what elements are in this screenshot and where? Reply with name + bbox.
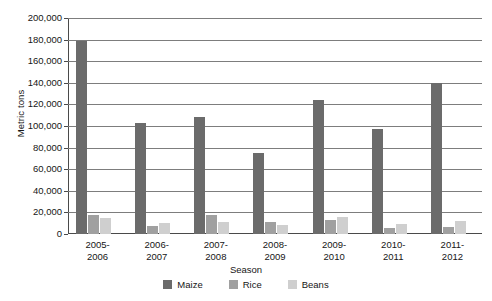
bar-rice xyxy=(147,226,158,234)
bar-rice xyxy=(443,227,454,234)
bar-rice xyxy=(206,215,217,234)
x-axis-label: 2010-2011 xyxy=(364,239,423,262)
bar-maize xyxy=(135,123,146,234)
y-axis-label: 0 xyxy=(57,229,62,239)
legend-label: Beans xyxy=(302,279,329,290)
x-axis-title: Season xyxy=(0,264,492,275)
legend-label: Maize xyxy=(177,279,202,290)
legend-swatch-maize-icon xyxy=(163,280,172,289)
legend-item-rice: Rice xyxy=(229,279,262,290)
bar-group xyxy=(364,18,423,234)
plot-area: 200,000180,000160,000140,000120,000100,0… xyxy=(68,18,482,234)
bar-maize xyxy=(431,83,442,234)
bar-group xyxy=(423,18,482,234)
bar-rice xyxy=(265,222,276,234)
bar-group xyxy=(245,18,304,234)
bar-beans xyxy=(100,218,111,234)
y-axis-label: 60,000 xyxy=(33,164,62,174)
x-axis-label: 2007-2008 xyxy=(186,239,245,262)
chart-legend: MaizeRiceBeans xyxy=(0,279,492,290)
bar-maize xyxy=(76,41,87,234)
y-axis-label: 20,000 xyxy=(33,208,62,218)
x-axis-label: 2011-2012 xyxy=(423,239,482,262)
y-axis-label: 80,000 xyxy=(33,143,62,153)
legend-swatch-rice-icon xyxy=(229,280,238,289)
y-axis-label: 140,000 xyxy=(28,78,62,88)
legend-swatch-beans-icon xyxy=(288,280,297,289)
x-axis-label: 2006-2007 xyxy=(127,239,186,262)
bar-rice xyxy=(384,228,395,234)
bar-group xyxy=(305,18,364,234)
legend-item-maize: Maize xyxy=(163,279,202,290)
bar-group xyxy=(127,18,186,234)
x-axis-label: 2009-2010 xyxy=(305,239,364,262)
bar-beans xyxy=(337,217,348,234)
y-axis-label: 100,000 xyxy=(28,121,62,131)
y-axis-tick xyxy=(64,234,68,235)
bar-beans xyxy=(277,225,288,234)
bar-maize xyxy=(194,117,205,234)
bar-maize xyxy=(372,129,383,234)
bar-group xyxy=(68,18,127,234)
y-axis-label: 120,000 xyxy=(28,100,62,110)
x-axis-label: 2005-2006 xyxy=(68,239,127,262)
y-axis-label: 180,000 xyxy=(28,35,62,45)
bar-maize xyxy=(313,100,324,234)
bar-rice xyxy=(325,220,336,234)
bar-chart: Metric tons 200,000180,000160,000140,000… xyxy=(0,0,492,301)
bar-beans xyxy=(218,222,229,234)
bar-beans xyxy=(396,224,407,234)
y-axis-label: 200,000 xyxy=(28,13,62,23)
bar-rice xyxy=(88,215,99,234)
y-axis-label: 160,000 xyxy=(28,56,62,66)
y-axis-title: Metric tons xyxy=(15,74,26,154)
legend-item-beans: Beans xyxy=(288,279,329,290)
x-axis-label: 2008-2009 xyxy=(245,239,304,262)
bar-maize xyxy=(253,153,264,234)
bar-beans xyxy=(159,223,170,234)
bar-beans xyxy=(455,221,466,235)
y-axis-label: 40,000 xyxy=(33,186,62,196)
legend-label: Rice xyxy=(243,279,262,290)
bar-group xyxy=(186,18,245,234)
